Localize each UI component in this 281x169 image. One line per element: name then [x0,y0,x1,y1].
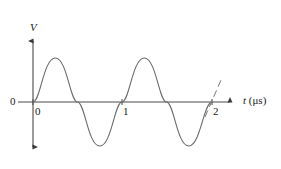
x-tick-label-1: 1 [123,106,129,117]
sine-wave-plot [0,0,281,169]
horizontal-axis-label: t (μs) [243,95,266,106]
figure-container: V t (μs) 0 0 1 2 [0,0,281,169]
vertical-axis-label: V [30,22,37,33]
x-tick-label-2: 2 [213,106,219,117]
x-tick-label-0: 0 [35,106,41,117]
origin-left-label: 0 [10,96,16,107]
horizontal-axis-unit: (μs) [249,94,267,106]
